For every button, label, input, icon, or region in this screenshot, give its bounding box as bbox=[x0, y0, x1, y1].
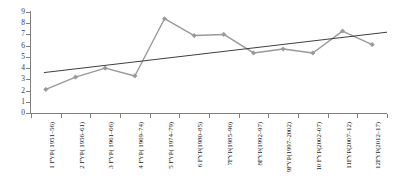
y-axis-tick bbox=[26, 23, 30, 24]
y-axis-tick bbox=[26, 102, 30, 103]
y-axis-tick bbox=[26, 57, 30, 58]
trendline bbox=[44, 32, 387, 72]
data-point-marker bbox=[281, 47, 285, 51]
line-chart: 0123456789 1 FYP( 1951–56)2 FYP( 1956–61… bbox=[0, 0, 407, 190]
y-axis-tick bbox=[26, 46, 30, 47]
y-axis-tick bbox=[26, 12, 30, 13]
y-axis-tick bbox=[26, 68, 30, 69]
series-layer bbox=[0, 0, 407, 190]
data-point-marker bbox=[73, 75, 77, 79]
y-axis-tick bbox=[26, 91, 30, 92]
data-series-line bbox=[46, 19, 372, 90]
data-point-markers bbox=[44, 17, 375, 92]
y-axis-tick bbox=[26, 79, 30, 80]
data-point-marker bbox=[44, 87, 48, 91]
y-axis-tick bbox=[26, 34, 30, 35]
data-point-marker bbox=[370, 42, 374, 46]
data-point-marker bbox=[103, 66, 107, 70]
y-axis-tick bbox=[26, 113, 30, 114]
